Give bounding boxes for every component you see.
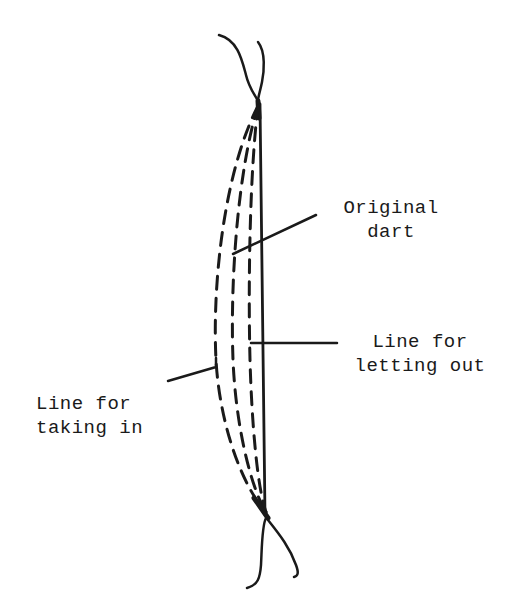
taking-in-leader	[168, 358, 216, 381]
letting-out-label: Line for letting out	[340, 330, 500, 378]
original-dart-leader	[233, 215, 316, 254]
dart-diagram	[0, 0, 524, 614]
top-thread-left	[219, 35, 258, 101]
letting-out-label-line2: letting out	[340, 354, 500, 378]
top-thread-right	[258, 42, 264, 101]
original-dart-label-line2: dart	[326, 220, 456, 244]
bottom-thread-right	[268, 520, 298, 577]
bottom-thread-left	[247, 518, 266, 588]
original-dart-label: Original dart	[326, 196, 456, 244]
taking-in-line	[215, 106, 266, 512]
fold-line	[260, 104, 265, 515]
taking-in-label: Line for taking in	[36, 392, 186, 440]
taking-in-label-line1: Line for	[36, 392, 186, 416]
letting-out-label-line1: Line for	[340, 330, 500, 354]
taking-in-label-line2: taking in	[36, 416, 186, 440]
original-dart-label-line1: Original	[326, 196, 456, 220]
